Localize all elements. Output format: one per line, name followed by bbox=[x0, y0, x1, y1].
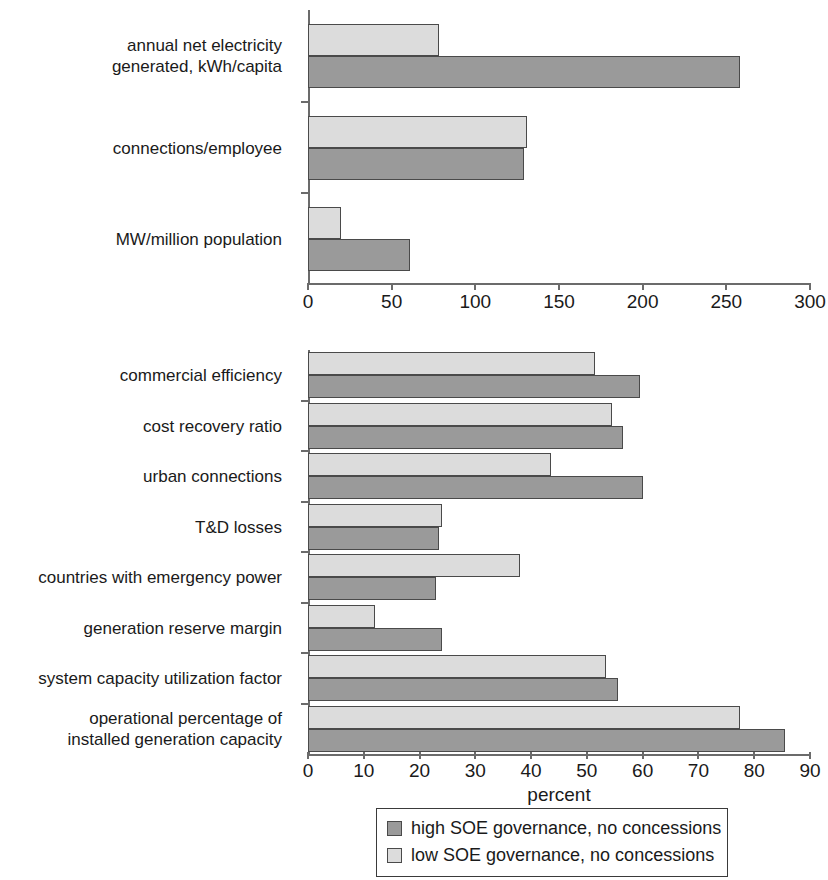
y-axis-tick bbox=[301, 703, 308, 705]
x-axis-tick-label: 80 bbox=[744, 760, 765, 782]
bar-dark-series bbox=[308, 678, 618, 701]
x-axis-tick bbox=[558, 283, 560, 290]
x-axis-tick-label: 90 bbox=[799, 760, 820, 782]
x-axis-tick-label: 10 bbox=[353, 760, 374, 782]
x-axis-tick bbox=[809, 283, 811, 290]
y-axis-tick bbox=[301, 101, 308, 103]
y-axis-tick bbox=[301, 400, 308, 402]
x-axis-tick bbox=[307, 283, 309, 290]
legend-label: high SOE governance, no concessions bbox=[411, 818, 721, 839]
y-axis-tick bbox=[301, 501, 308, 503]
bar-dark-series bbox=[308, 375, 640, 398]
bottom-chart-x-axis-title: percent bbox=[527, 784, 590, 806]
bar-dark-series bbox=[308, 426, 623, 449]
bar-light-series bbox=[308, 706, 740, 729]
category-label: system capacity utilization factor bbox=[38, 668, 282, 689]
chart-legend: high SOE governance, no concessionslow S… bbox=[376, 808, 728, 877]
legend-item[interactable]: low SOE governance, no concessions bbox=[387, 842, 713, 869]
x-axis-tick-label: 60 bbox=[632, 760, 653, 782]
x-axis-tick bbox=[307, 752, 309, 759]
bar-light-series bbox=[308, 655, 606, 678]
bar-dark-series bbox=[308, 239, 410, 271]
x-axis-tick bbox=[753, 752, 755, 759]
x-axis-tick bbox=[586, 752, 588, 759]
category-label: connections/employee bbox=[113, 137, 282, 158]
bar-dark-series bbox=[308, 729, 785, 752]
legend-swatch-icon bbox=[387, 848, 402, 863]
x-axis-tick-label: 200 bbox=[627, 291, 659, 313]
x-axis-tick bbox=[419, 752, 421, 759]
x-axis-tick bbox=[697, 752, 699, 759]
x-axis-tick bbox=[474, 283, 476, 290]
category-label: T&D losses bbox=[195, 516, 282, 537]
x-axis-tick-label: 30 bbox=[465, 760, 486, 782]
x-axis-tick bbox=[530, 752, 532, 759]
y-axis-tick bbox=[301, 450, 308, 452]
x-axis-tick-label: 0 bbox=[303, 760, 314, 782]
bar-light-series bbox=[308, 403, 612, 426]
bottom-chart-panel: commercial efficiencycost recovery ratio… bbox=[0, 340, 828, 800]
bar-light-series bbox=[308, 116, 527, 148]
x-axis-tick-label: 50 bbox=[576, 760, 597, 782]
top-chart-category-labels: annual net electricity generated, kWh/ca… bbox=[0, 0, 296, 320]
bar-light-series bbox=[308, 352, 595, 375]
x-axis-tick-label: 250 bbox=[710, 291, 742, 313]
bar-light-series bbox=[308, 207, 341, 239]
bar-light-series bbox=[308, 554, 520, 577]
figure-root: annual net electricity generated, kWh/ca… bbox=[0, 0, 828, 880]
x-axis-tick bbox=[363, 752, 365, 759]
y-axis-tick bbox=[301, 652, 308, 654]
x-axis-tick bbox=[642, 752, 644, 759]
bar-dark-series bbox=[308, 476, 643, 499]
bar-dark-series bbox=[308, 527, 439, 550]
x-axis-tick-label: 300 bbox=[794, 291, 826, 313]
category-label: urban connections bbox=[143, 466, 282, 487]
bar-light-series bbox=[308, 453, 551, 476]
bar-dark-series bbox=[308, 148, 524, 180]
x-axis-tick-label: 0 bbox=[303, 291, 314, 313]
bar-dark-series bbox=[308, 577, 436, 600]
category-label: operational percentage of installed gene… bbox=[67, 708, 282, 750]
category-label: cost recovery ratio bbox=[143, 415, 282, 436]
bottom-chart-x-axis bbox=[308, 754, 810, 756]
top-chart-plot-area: 050100150200250300 bbox=[308, 10, 810, 285]
x-axis-tick bbox=[809, 752, 811, 759]
y-axis-tick bbox=[301, 551, 308, 553]
legend-label: low SOE governance, no concessions bbox=[411, 845, 714, 866]
bar-dark-series bbox=[308, 628, 442, 651]
legend-swatch-icon bbox=[387, 821, 402, 836]
legend-item[interactable]: high SOE governance, no concessions bbox=[387, 815, 713, 842]
bar-light-series bbox=[308, 24, 439, 56]
y-axis-tick bbox=[301, 602, 308, 604]
category-label: generation reserve margin bbox=[84, 617, 282, 638]
x-axis-tick-label: 150 bbox=[543, 291, 575, 313]
bar-light-series bbox=[308, 605, 375, 628]
x-axis-tick bbox=[642, 283, 644, 290]
top-chart-panel: annual net electricity generated, kWh/ca… bbox=[0, 0, 828, 320]
bottom-chart-category-labels: commercial efficiencycost recovery ratio… bbox=[0, 340, 296, 760]
x-axis-tick bbox=[725, 283, 727, 290]
category-label: countries with emergency power bbox=[38, 567, 282, 588]
category-label: commercial efficiency bbox=[120, 365, 282, 386]
x-axis-tick-label: 40 bbox=[521, 760, 542, 782]
x-axis-tick-label: 100 bbox=[459, 291, 491, 313]
category-label: MW/million population bbox=[116, 229, 282, 250]
bar-dark-series bbox=[308, 56, 740, 88]
category-label: annual net electricity generated, kWh/ca… bbox=[112, 35, 282, 77]
x-axis-tick bbox=[391, 283, 393, 290]
x-axis-tick-label: 70 bbox=[688, 760, 709, 782]
x-axis-tick-label: 20 bbox=[409, 760, 430, 782]
bar-light-series bbox=[308, 504, 442, 527]
bottom-chart-plot-area: 0102030405060708090 bbox=[308, 350, 810, 756]
x-axis-tick bbox=[474, 752, 476, 759]
y-axis-tick bbox=[301, 192, 308, 194]
x-axis-tick-label: 50 bbox=[381, 291, 402, 313]
